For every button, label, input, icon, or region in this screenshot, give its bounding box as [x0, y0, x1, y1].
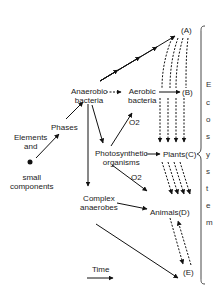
node-A: (A)	[181, 26, 192, 35]
node-phases: Phases	[51, 123, 78, 132]
ecosystem-letter: t	[206, 184, 208, 193]
dashed-D-to-E	[170, 218, 183, 264]
ecosystem-letter: c	[206, 98, 210, 107]
node-plants-C: Plants(C)	[163, 150, 196, 159]
node-anaerobic-bacteria: Anaerobic bacteria	[71, 87, 107, 105]
ecosystem-bracket	[197, 26, 205, 284]
arrow-anaerobic-to-photosynthetic	[92, 105, 103, 143]
node-E: (E)	[183, 268, 194, 277]
node-B: (B)	[182, 88, 193, 97]
ecosystem-letter: m	[206, 218, 213, 227]
o2-label-lower: O2	[131, 173, 142, 182]
node-photosynthetic-organisms: Photosynthetic organisms	[95, 149, 147, 167]
node-small-components: small components	[10, 173, 54, 191]
dashed-E-to-D	[178, 221, 191, 265]
ecosystem-letter: s	[206, 132, 210, 141]
ecosystem-letter: e	[206, 201, 210, 210]
o2-label-upper: O2	[129, 118, 140, 127]
node-aerobic-bacteria: Aerobic bacteria	[128, 87, 156, 105]
ecosystem-letter: s	[206, 167, 210, 176]
ecosystem-letter: y	[206, 150, 210, 159]
time-label: Time	[92, 265, 109, 274]
node-animals-D: Animals(D)	[150, 208, 190, 217]
dashed-C-to-D	[162, 162, 172, 194]
node-complex-anaerobes: Complex anaerobes	[80, 194, 118, 212]
ecosystem-letter: o	[206, 115, 210, 124]
elements-dot	[28, 160, 33, 165]
ecosystem-letter: E	[206, 80, 211, 89]
arrow-complex-to-animals	[117, 203, 147, 209]
node-elements: Elements and	[14, 133, 47, 151]
